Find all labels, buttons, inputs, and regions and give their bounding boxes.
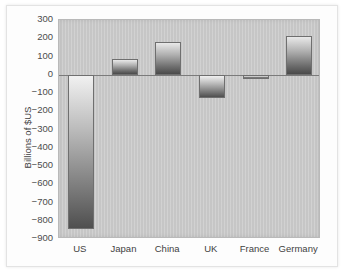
y-tick-label: 200 [1, 32, 53, 42]
y-tick-label: −400 [1, 142, 53, 152]
y-tick-label: −300 [1, 124, 53, 134]
bar-chart-figure: Billions of $US 3002001000−100−200−300−4… [0, 0, 344, 272]
x-axis-ticks: USJapanChinaUKFranceGermany [58, 243, 320, 259]
x-tick-label-japan: Japan [111, 243, 137, 254]
bar-japan [112, 59, 138, 75]
bar-france [243, 75, 269, 80]
x-tick-label-france: France [240, 243, 270, 254]
bar-uk [199, 75, 225, 98]
y-tick-label: −800 [1, 215, 53, 225]
x-tick-label-uk: UK [204, 243, 217, 254]
y-tick-label: −200 [1, 105, 53, 115]
y-tick-label: −500 [1, 160, 53, 170]
zero-baseline [59, 75, 319, 76]
x-tick-label-germany: Germany [279, 243, 318, 254]
y-tick-label: 100 [1, 51, 53, 61]
y-tick-label: −100 [1, 87, 53, 97]
bar-china [155, 42, 181, 75]
y-tick-label: 300 [1, 14, 53, 24]
y-axis-ticks: 3002001000−100−200−300−400−500−600−700−8… [0, 19, 53, 238]
y-tick-label: −900 [1, 233, 53, 243]
bar-us [68, 75, 94, 229]
bar-germany [286, 36, 312, 74]
plot-area [58, 19, 320, 238]
y-tick-label: −700 [1, 197, 53, 207]
x-tick-label-china: China [155, 243, 180, 254]
y-tick-label: 0 [1, 69, 53, 79]
y-tick-label: −600 [1, 178, 53, 188]
x-tick-label-us: US [73, 243, 86, 254]
